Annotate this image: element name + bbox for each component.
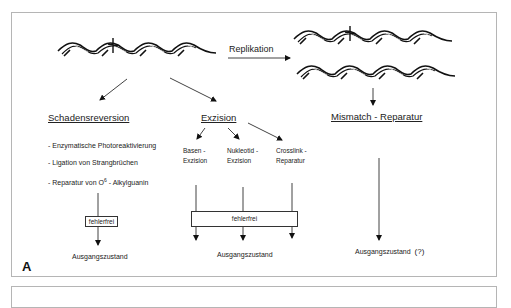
result-middle: Ausgangszustand: [217, 250, 273, 259]
dna-helix-damaged-icon: [58, 38, 216, 56]
heading-mismatch-reparatur: Mismatch - Reparatur: [331, 111, 422, 122]
result-right: Ausgangszustand (?): [355, 247, 424, 256]
reversion-item-2: - Ligation von Strangbrüchen: [48, 158, 138, 167]
subtype-crosslink: Crosslink -Reparatur: [276, 146, 307, 165]
error-free-box-left: fehlerfrei: [85, 216, 118, 227]
replication-label: Replikation: [229, 45, 274, 54]
reversion-item-3: - Reparatur von O6 - Alkylguanin: [48, 176, 148, 187]
result-left: Ausgangszustand: [72, 252, 128, 261]
heading-exzision: Exzision: [201, 112, 236, 123]
reversion-item-1: - Enzymatische Photoreaktivierung: [48, 141, 156, 150]
subtype-nukleotid: Nukleotid -Exzision: [227, 146, 258, 165]
heading-schadensreversion: Schadensreversion: [48, 112, 129, 123]
dna-helix-replicated-damaged-icon: [294, 26, 452, 44]
error-free-box-middle: fehlerfrei: [191, 211, 298, 227]
dna-helix-replicated-icon: [297, 66, 455, 79]
subtype-basen: Basen -Exzision: [183, 146, 207, 165]
panel-label: A: [22, 259, 31, 274]
